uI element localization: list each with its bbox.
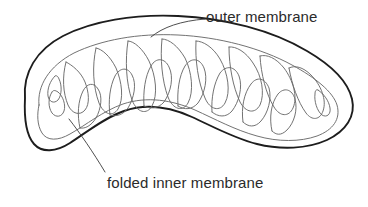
label-outer-membrane: outer membrane — [206, 8, 317, 25]
mitochondrion-diagram: outer membrane folded inner membrane — [0, 0, 368, 207]
label-folded-inner-membrane: folded inner membrane — [107, 174, 263, 191]
